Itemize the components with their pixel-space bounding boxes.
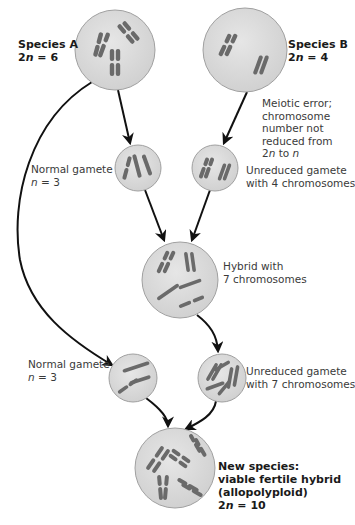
label-normal-gamete-bottom: Normal gamete n = 3 — [28, 358, 110, 383]
label-unreduced-gamete-7: Unreduced gamete with 7 chromosomes — [246, 365, 355, 390]
cell-species-b — [203, 8, 287, 92]
cell-unreduced-gamete-7 — [198, 354, 246, 402]
label-species-b: Species B 2n = 4 — [288, 38, 348, 64]
cell-normal-gamete-bottom — [109, 354, 157, 402]
arrow-a-to-normal-gamete-bottom — [18, 82, 112, 365]
cell-unreduced-gamete-4 — [192, 145, 238, 191]
label-hybrid: Hybrid with 7 chromosomes — [223, 260, 307, 285]
species-b-title: Species B — [288, 38, 348, 51]
cell-hybrid — [142, 242, 218, 318]
label-unreduced-gamete-4: Unreduced gamete with 4 chromosomes — [246, 164, 355, 189]
label-new-species: New species: viable fertile hybrid (allo… — [218, 460, 341, 512]
arrow-unreduced7-to-new — [186, 401, 216, 429]
species-a-title: Species A — [18, 38, 78, 51]
arrow-a-to-normal-gamete-top — [118, 90, 130, 143]
cell-normal-gamete-top — [115, 145, 161, 191]
label-species-a: Species A 2n = 6 — [18, 38, 78, 64]
species-b-ploidy: 2n = 4 — [288, 51, 348, 64]
label-normal-gamete-top: Normal gamete n = 3 — [31, 163, 113, 188]
arrow-b-to-unreduced-4 — [224, 92, 247, 143]
cell-species-a — [75, 10, 155, 90]
cell-new-species — [135, 428, 215, 508]
arrow-hybrid-to-unreduced7 — [197, 315, 218, 351]
label-meiotic-error: Meiotic error; chromosome number not red… — [262, 97, 333, 160]
arrow-unreduced4-to-hybrid — [192, 190, 210, 240]
arrow-normal-bottom-to-new — [146, 398, 168, 426]
species-a-ploidy: 2n = 6 — [18, 51, 78, 64]
arrow-normal-top-to-hybrid — [145, 190, 164, 240]
